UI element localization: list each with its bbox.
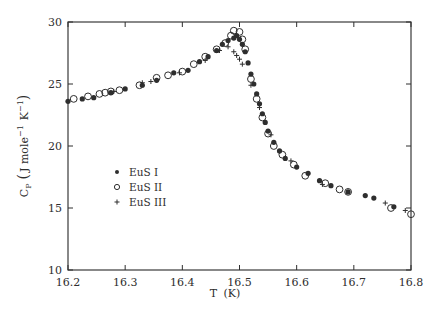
data-point	[197, 59, 202, 64]
data-point	[245, 60, 250, 65]
data-point	[123, 86, 128, 91]
y-axis-exponent-1: −1	[16, 125, 25, 137]
data-point	[328, 183, 333, 188]
legend-marker-open-circle	[114, 184, 119, 189]
x-tick-label: 16.4	[170, 276, 195, 289]
data-point	[371, 195, 376, 200]
data-point	[231, 49, 236, 54]
y-axis-subscript: P	[24, 183, 33, 189]
data-point	[403, 208, 408, 213]
legend-label-eus-2: EuS II	[129, 181, 162, 193]
y-tick-labels: 1015202530	[48, 16, 62, 277]
data-point	[226, 44, 231, 49]
legend-label-eus-3: EuS III	[129, 196, 166, 208]
data-point	[317, 178, 322, 183]
data-point	[346, 189, 351, 194]
data-point	[165, 72, 172, 79]
data-point	[148, 79, 153, 84]
data-point	[91, 95, 96, 100]
y-axis-title: CP(J mole−1K−1)	[15, 95, 33, 198]
y-axis-paren-close: )	[15, 95, 31, 100]
data-point	[288, 158, 293, 163]
data-point	[240, 62, 245, 67]
legend: EuS I EuS II EuS III	[114, 166, 166, 208]
x-tick-label: 16.2	[56, 276, 81, 289]
data-point	[80, 96, 85, 101]
legend-marker-filled-circle	[115, 170, 119, 174]
y-tick-label: 15	[48, 202, 62, 215]
data-point	[85, 93, 92, 100]
data-point	[65, 99, 70, 104]
data-point	[171, 70, 176, 75]
data-point	[363, 193, 368, 198]
x-tick-label: 16.7	[342, 276, 367, 289]
data-point	[336, 186, 343, 193]
data-point	[257, 105, 262, 110]
data-point	[190, 61, 197, 68]
x-tick-label: 16.3	[113, 276, 138, 289]
data-point	[237, 57, 242, 62]
x-tick-label: 16.6	[284, 276, 309, 289]
series-eus-i	[65, 33, 396, 209]
x-tick-label: 16.8	[399, 276, 424, 289]
y-tick-label: 10	[48, 264, 62, 277]
y-axis-paren-open: (	[15, 174, 31, 179]
y-axis-units: J mole	[18, 137, 31, 173]
x-axis-title: T (K)	[210, 287, 241, 300]
y-tick-label: 30	[48, 16, 62, 29]
data-point	[234, 53, 239, 58]
data-point	[185, 68, 190, 73]
data-point	[279, 151, 286, 158]
specific-heat-chart: 16.216.316.416.516.616.716.8 1015202530 …	[0, 0, 436, 322]
y-axis-exponent-2: −1	[16, 100, 25, 112]
x-axis-unit: (K)	[224, 287, 241, 300]
x-axis-symbol: T	[210, 287, 218, 300]
series-eus-ii	[70, 27, 414, 217]
y-tick-label: 20	[48, 140, 62, 153]
data-point	[70, 95, 77, 102]
data-point	[116, 87, 123, 94]
data-point	[383, 201, 388, 206]
legend-marker-plus	[115, 200, 120, 205]
y-tick-label: 25	[48, 78, 62, 91]
legend-label-eus-1: EuS I	[129, 166, 158, 178]
y-axis-symbol: C	[18, 189, 31, 197]
